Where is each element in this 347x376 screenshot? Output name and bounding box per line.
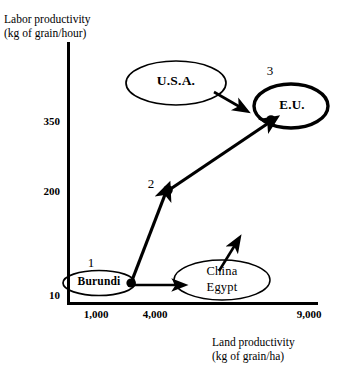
china-egypt-callout-label: ChinaEgypt: [186, 264, 258, 295]
egypt-label: Egypt: [207, 280, 238, 294]
burundi-callout-label: Burundi: [64, 275, 134, 289]
data-point-2: [163, 185, 173, 195]
china-label: China: [207, 264, 238, 278]
y-tick-label-350: 350: [20, 115, 60, 128]
x-tick-label-4000: 4,000: [125, 308, 185, 321]
x-axis-title: Land productivity(kg of grain/ha): [212, 336, 295, 363]
x-tick-label-9000: 9,000: [279, 308, 339, 321]
x-axis-title-line2: (kg of grain/ha): [212, 350, 284, 362]
chart-figure: Labor productivity(kg of grain/hour) Lan…: [0, 0, 347, 376]
trajectory-segment-2: [166, 122, 270, 192]
x-tick-label-1000: 1,000: [66, 308, 126, 321]
usa-callout-label: U.S.A.: [135, 73, 217, 89]
y-axis-title-line2: (kg of grain/hour): [4, 27, 86, 39]
trajectory-segment-1: [131, 192, 166, 283]
data-point-label-3: 3: [260, 63, 280, 78]
y-axis-title-line1: Labor productivity: [4, 13, 91, 25]
y-axis-title: Labor productivity(kg of grain/hour): [4, 13, 91, 40]
eu-callout-label: E.U.: [262, 97, 322, 112]
data-point-label-1: 1: [81, 255, 101, 270]
x-axis-title-line1: Land productivity: [212, 336, 295, 348]
y-tick-label-10: 10: [20, 289, 60, 302]
trajectory-line: [131, 122, 270, 283]
y-tick-label-200: 200: [20, 185, 60, 198]
data-point-label-2: 2: [141, 176, 161, 191]
usa-callout-arrow: [214, 92, 240, 107]
